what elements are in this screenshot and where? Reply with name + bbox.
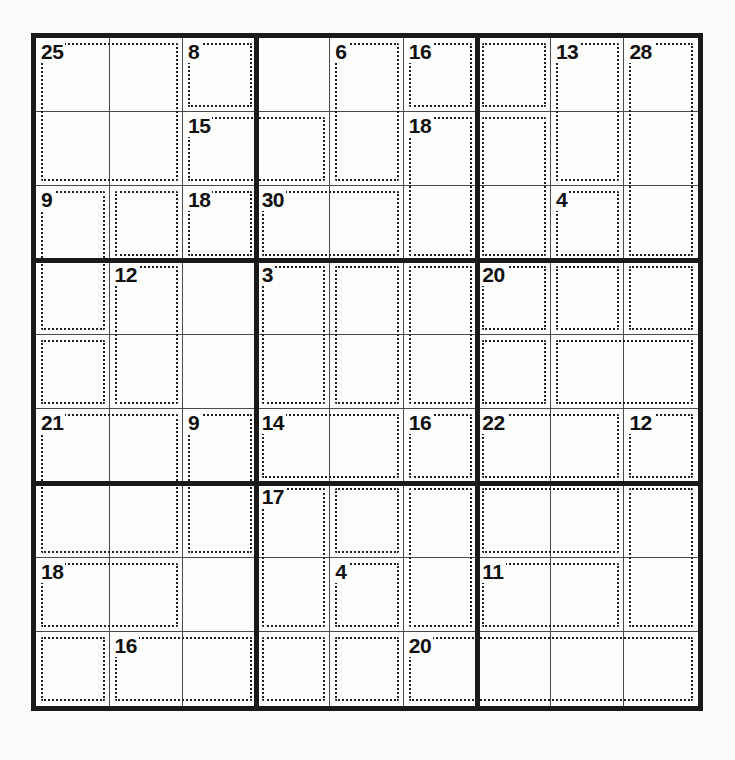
cage-sum-c3: 6 — [334, 41, 348, 63]
cell-r1c2[interactable] — [110, 38, 184, 112]
cage-sum-c2: 8 — [187, 41, 201, 63]
block-line-vertical-1 — [254, 38, 259, 706]
cage-sum-c9: 9 — [40, 189, 54, 211]
cell-r4c9[interactable] — [624, 261, 698, 335]
cage-sum-c23: 4 — [334, 561, 348, 583]
cell-r5c1[interactable] — [36, 335, 110, 409]
cage-sum-c25: 11 — [481, 561, 505, 583]
block-line-horizontal-2 — [36, 481, 698, 486]
cell-r5c5[interactable] — [330, 335, 404, 409]
cage-sum-c14: 3 — [261, 264, 275, 286]
cell-r4c1[interactable] — [36, 261, 110, 335]
cell-r9c8[interactable] — [551, 632, 625, 706]
cell-r5c9[interactable] — [624, 335, 698, 409]
cage-sum-c18: 14 — [261, 412, 286, 434]
cell-r8c2[interactable] — [110, 558, 184, 632]
cell-r8c9[interactable] — [624, 558, 698, 632]
cage-sum-c27: 20 — [408, 635, 433, 657]
cell-r5c2[interactable] — [110, 335, 184, 409]
cell-r8c3[interactable] — [183, 558, 257, 632]
grid-cells — [36, 38, 698, 706]
sudoku-grid[interactable]: 2586161328151891830412320219141622121741… — [31, 33, 703, 711]
cell-r8c4[interactable] — [257, 558, 331, 632]
cage-sum-c16: 21 — [40, 412, 65, 434]
cell-r8c6[interactable] — [404, 558, 478, 632]
killer-sudoku-page: 2586161328151891830412320219141622121741… — [0, 0, 735, 760]
cage-sum-c17: 9 — [187, 412, 201, 434]
cell-r2c1[interactable] — [36, 112, 110, 186]
cage-sum-c5: 13 — [555, 41, 580, 63]
cage-sum-c15: 20 — [481, 264, 506, 286]
cell-r2c8[interactable] — [551, 112, 625, 186]
cell-r4c6[interactable] — [404, 261, 478, 335]
cage-sum-c21: 12 — [628, 412, 653, 434]
cell-r4c3[interactable] — [183, 261, 257, 335]
cage-sum-c4: 16 — [408, 41, 433, 63]
cell-r9c7[interactable] — [477, 632, 551, 706]
cell-r7c8[interactable] — [551, 483, 625, 557]
cage-sum-c7: 15 — [187, 115, 212, 137]
cell-r3c7[interactable] — [477, 186, 551, 260]
cell-r7c1[interactable] — [36, 483, 110, 557]
cell-r9c3[interactable] — [183, 632, 257, 706]
cell-r3c2[interactable] — [110, 186, 184, 260]
cell-r1c4[interactable] — [257, 38, 331, 112]
cage-sum-c10: 18 — [187, 189, 212, 211]
cell-r6c2[interactable] — [110, 409, 184, 483]
cage-sum-c12: 4 — [555, 189, 569, 211]
cage-sum-c19: 16 — [408, 412, 433, 434]
cell-r7c5[interactable] — [330, 483, 404, 557]
cage-sum-c13: 12 — [114, 264, 139, 286]
cage-sum-c24: 18 — [40, 561, 65, 583]
cell-r7c7[interactable] — [477, 483, 551, 557]
cell-r7c3[interactable] — [183, 483, 257, 557]
cell-r3c5[interactable] — [330, 186, 404, 260]
cell-r5c3[interactable] — [183, 335, 257, 409]
cell-r5c4[interactable] — [257, 335, 331, 409]
cell-r4c5[interactable] — [330, 261, 404, 335]
cell-r5c6[interactable] — [404, 335, 478, 409]
cell-r9c1[interactable] — [36, 632, 110, 706]
cell-r8c8[interactable] — [551, 558, 625, 632]
cell-r2c4[interactable] — [257, 112, 331, 186]
cell-r7c2[interactable] — [110, 483, 184, 557]
cell-r9c4[interactable] — [257, 632, 331, 706]
cell-r9c5[interactable] — [330, 632, 404, 706]
cage-sum-c26: 16 — [114, 635, 139, 657]
cell-r6c5[interactable] — [330, 409, 404, 483]
cell-r6c8[interactable] — [551, 409, 625, 483]
cell-r2c9[interactable] — [624, 112, 698, 186]
cell-r7c6[interactable] — [404, 483, 478, 557]
cell-r9c9[interactable] — [624, 632, 698, 706]
cell-r3c6[interactable] — [404, 186, 478, 260]
cell-r2c5[interactable] — [330, 112, 404, 186]
cage-sum-c8: 18 — [408, 115, 433, 137]
block-line-vertical-2 — [475, 38, 480, 706]
cage-sum-c1: 25 — [40, 41, 65, 63]
cell-r2c2[interactable] — [110, 112, 184, 186]
cell-r7c9[interactable] — [624, 483, 698, 557]
cage-sum-c22: 17 — [261, 486, 286, 508]
cell-r5c7[interactable] — [477, 335, 551, 409]
cell-r4c8[interactable] — [551, 261, 625, 335]
cage-sum-c20: 22 — [481, 412, 506, 434]
cell-r5c8[interactable] — [551, 335, 625, 409]
cage-sum-c6: 28 — [628, 41, 653, 63]
cell-r3c9[interactable] — [624, 186, 698, 260]
cell-r1c7[interactable] — [477, 38, 551, 112]
cell-r2c7[interactable] — [477, 112, 551, 186]
cage-sum-c11: 30 — [261, 189, 286, 211]
